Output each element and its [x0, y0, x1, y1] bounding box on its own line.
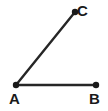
segment-ac — [16, 12, 75, 85]
point-label-b: B — [89, 91, 100, 106]
point-label-a: A — [9, 91, 20, 106]
angle-diagram: A B C — [0, 0, 108, 111]
point-label-c: C — [77, 3, 88, 18]
vertex-point-b — [93, 82, 99, 88]
vertex-point-a — [13, 82, 19, 88]
